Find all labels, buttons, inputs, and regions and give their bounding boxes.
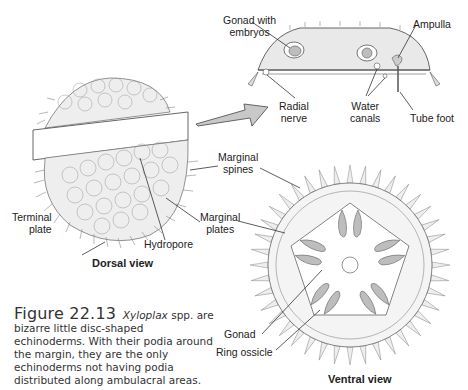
label-line: Radial [279, 100, 309, 112]
label-radial-nerve: Radial nerve [279, 100, 309, 124]
label-line: Marginal [218, 151, 258, 163]
label-gonad: Gonad [224, 328, 256, 340]
label-line: canals [350, 112, 380, 124]
label-line: Terminal [12, 211, 52, 223]
figure-number: Figure 22.13 [14, 304, 116, 323]
label-line: spines [218, 163, 258, 175]
label-gonad-with-embryos: Gonad with embryos [223, 14, 276, 38]
label-ampulla: Ampulla [413, 18, 451, 30]
cross-section-illustration [248, 21, 440, 110]
figure-caption: Figure 22.13 Xyloplax spp. are bizarre l… [14, 307, 214, 387]
label-line: nerve [279, 112, 309, 124]
label-line: embryos [223, 26, 276, 38]
label-ring-ossicle: Ring ossicle [216, 346, 273, 358]
label-tube-foot: Tube foot [410, 112, 454, 124]
ventral-view-title: Ventral view [328, 373, 392, 385]
label-line: Water [350, 100, 380, 112]
label-terminal-plate: Terminal plate [12, 211, 52, 235]
label-line: Marginal [200, 211, 240, 223]
dorsal-view-illustration [33, 78, 218, 255]
label-marginal-plates: Marginal plates [200, 211, 240, 235]
label-line: Gonad with [223, 14, 276, 26]
figure-genus: Xyloplax [123, 309, 168, 321]
label-hydropore: Hydropore [144, 238, 193, 250]
dorsal-view-title: Dorsal view [92, 257, 153, 269]
arrow-icon [196, 104, 268, 126]
label-marginal-spines: Marginal spines [218, 151, 258, 175]
label-line: plates [200, 223, 240, 235]
label-water-canals: Water canals [350, 100, 380, 124]
label-line: plate [12, 223, 52, 235]
ventral-view-illustration [250, 165, 450, 365]
